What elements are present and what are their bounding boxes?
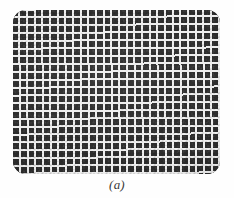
figure-root: (a) bbox=[0, 0, 234, 198]
grid-separator-lines bbox=[13, 10, 220, 174]
figure-caption: (a) bbox=[0, 177, 234, 192]
grid-panel-wrapper bbox=[13, 10, 220, 174]
grid-array-panel bbox=[13, 10, 220, 174]
